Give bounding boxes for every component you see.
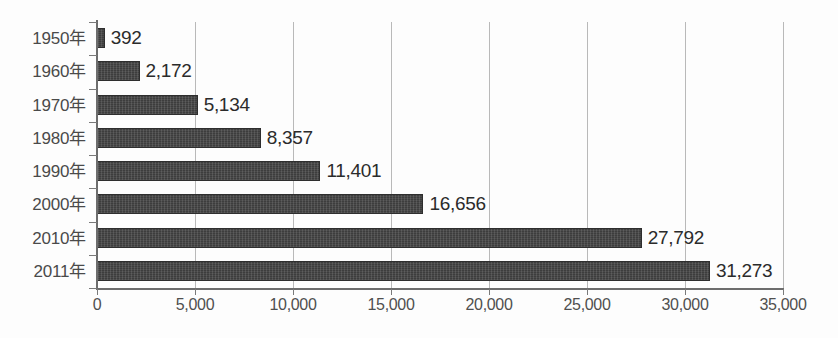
y-axis-tick bbox=[89, 188, 97, 189]
x-axis-tick-label: 30,000 bbox=[661, 296, 708, 314]
bar-row: 5,134 bbox=[97, 89, 783, 122]
bar bbox=[97, 261, 710, 281]
y-axis-tick-label: 2000年 bbox=[32, 188, 86, 221]
y-axis-tick bbox=[89, 22, 97, 23]
x-axis-tick-label: 20,000 bbox=[465, 296, 512, 314]
y-axis-tick-label: 2010年 bbox=[32, 222, 86, 255]
plot-area: 3922,1725,1348,35711,40116,65627,79231,2… bbox=[97, 22, 783, 288]
bar bbox=[97, 228, 642, 248]
x-axis-tick-label: 5,000 bbox=[176, 296, 215, 314]
x-axis-labels: 05,00010,00015,00020,00025,00030,00035,0… bbox=[0, 296, 838, 322]
x-axis-tick bbox=[685, 289, 686, 295]
bar-row: 392 bbox=[97, 22, 783, 55]
x-axis-tick-label: 15,000 bbox=[367, 296, 414, 314]
bar-row: 16,656 bbox=[97, 188, 783, 221]
y-axis-tick bbox=[89, 255, 97, 256]
y-axis-tick bbox=[89, 288, 97, 289]
x-axis-line bbox=[96, 288, 784, 290]
bar-row: 27,792 bbox=[97, 222, 783, 255]
bar bbox=[97, 128, 261, 148]
x-axis-tick-label: 35,000 bbox=[759, 296, 806, 314]
bar bbox=[97, 95, 198, 115]
bar-row: 8,357 bbox=[97, 122, 783, 155]
bar-row: 11,401 bbox=[97, 155, 783, 188]
x-axis-tick bbox=[489, 289, 490, 295]
x-axis-tick bbox=[293, 289, 294, 295]
y-axis-tick bbox=[89, 55, 97, 56]
x-axis-tick bbox=[195, 289, 196, 295]
y-axis-tick-label: 1950年 bbox=[32, 22, 86, 55]
gridline bbox=[783, 22, 784, 288]
x-axis-tick-label: 0 bbox=[93, 296, 102, 314]
y-axis-tick bbox=[89, 122, 97, 123]
y-axis-tick-label: 2011年 bbox=[33, 255, 86, 288]
bar bbox=[97, 161, 320, 181]
bar bbox=[97, 28, 105, 48]
x-axis-tick bbox=[97, 289, 98, 295]
y-axis-tick bbox=[89, 89, 97, 90]
bar-value-label: 8,357 bbox=[267, 127, 313, 149]
bar-value-label: 392 bbox=[111, 27, 142, 49]
bar-row: 31,273 bbox=[97, 255, 783, 288]
x-axis-tick bbox=[391, 289, 392, 295]
bar-value-label: 5,134 bbox=[204, 94, 250, 116]
bar-value-label: 27,792 bbox=[648, 227, 704, 249]
y-axis-tick-label: 1990年 bbox=[32, 155, 86, 188]
x-axis-tick-label: 25,000 bbox=[563, 296, 610, 314]
bar-chart: 1950年1960年1970年1980年1990年2000年2010年2011年… bbox=[0, 0, 838, 338]
bar bbox=[97, 194, 423, 214]
bar-row: 2,172 bbox=[97, 55, 783, 88]
bar-value-label: 31,273 bbox=[716, 260, 772, 282]
y-axis-tick-label: 1980年 bbox=[32, 122, 86, 155]
y-axis-tick bbox=[89, 155, 97, 156]
x-axis-tick-label: 10,000 bbox=[269, 296, 316, 314]
y-axis-labels: 1950年1960年1970年1980年1990年2000年2010年2011年 bbox=[0, 22, 92, 288]
y-axis-tick bbox=[89, 222, 97, 223]
y-axis-tick-label: 1960年 bbox=[32, 55, 86, 88]
y-axis-tick-label: 1970年 bbox=[32, 89, 86, 122]
bar bbox=[97, 61, 140, 81]
x-axis-tick bbox=[587, 289, 588, 295]
bar-value-label: 2,172 bbox=[146, 60, 192, 82]
x-axis-tick bbox=[783, 289, 784, 295]
bar-value-label: 11,401 bbox=[326, 160, 381, 182]
bar-value-label: 16,656 bbox=[429, 193, 485, 215]
